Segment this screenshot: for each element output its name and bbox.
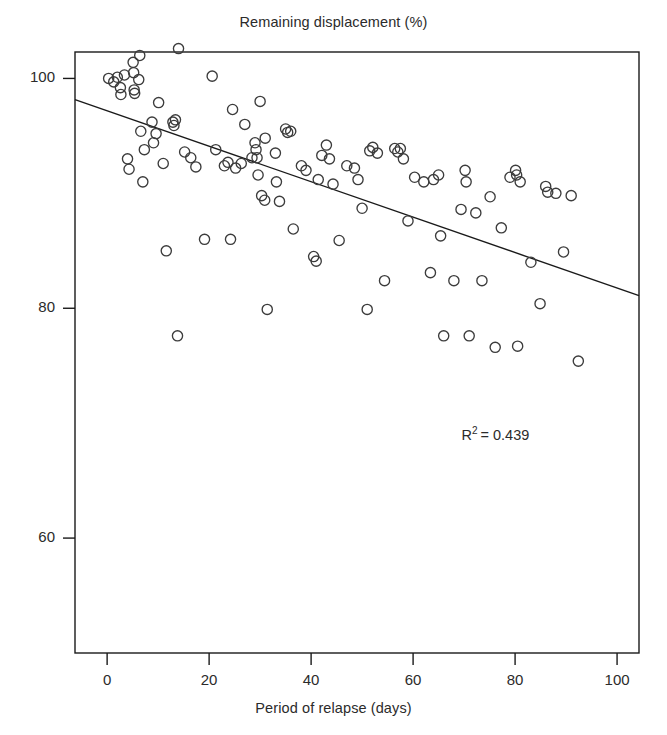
data-point xyxy=(136,126,146,136)
data-point xyxy=(271,177,281,187)
data-point xyxy=(199,234,209,244)
data-points-group xyxy=(104,43,584,366)
data-point xyxy=(573,356,583,366)
data-point xyxy=(439,331,449,341)
data-point xyxy=(227,104,237,114)
data-point xyxy=(260,133,270,143)
data-point xyxy=(321,140,331,150)
data-point xyxy=(147,117,157,127)
data-point xyxy=(464,331,474,341)
data-point xyxy=(151,128,161,138)
data-point xyxy=(535,299,545,309)
data-point xyxy=(270,148,280,158)
data-point xyxy=(154,97,164,107)
data-point xyxy=(485,192,495,202)
data-point xyxy=(334,235,344,245)
data-point xyxy=(122,154,132,164)
r-squared-value: = 0.439 xyxy=(478,426,530,442)
data-point xyxy=(116,89,126,99)
x-tick-label: 60 xyxy=(393,671,433,688)
data-point xyxy=(124,164,134,174)
data-point xyxy=(398,154,408,164)
y-tick-label: 80 xyxy=(9,298,55,315)
data-point xyxy=(172,331,182,341)
data-point xyxy=(541,181,551,191)
y-axis-ticks xyxy=(63,78,75,538)
x-tick-label: 80 xyxy=(495,671,535,688)
data-point xyxy=(357,203,367,213)
data-point xyxy=(262,304,272,314)
data-point xyxy=(566,191,576,201)
data-point xyxy=(180,147,190,157)
data-point xyxy=(313,174,323,184)
data-point xyxy=(207,71,217,81)
data-point xyxy=(139,145,149,155)
data-point xyxy=(134,74,144,84)
data-point xyxy=(456,204,466,214)
data-point xyxy=(129,68,139,78)
data-point xyxy=(255,96,265,106)
data-point xyxy=(461,177,471,187)
y-tick-label: 60 xyxy=(9,528,55,545)
data-point xyxy=(170,115,180,125)
data-point xyxy=(436,231,446,241)
data-point xyxy=(253,170,263,180)
x-tick-label: 40 xyxy=(291,671,331,688)
y-tick-label: 100 xyxy=(9,68,55,85)
data-point xyxy=(158,158,168,168)
data-point xyxy=(513,341,523,351)
data-point xyxy=(477,276,487,286)
x-tick-label: 20 xyxy=(189,671,229,688)
r-squared-annotation: R2 = 0.439 xyxy=(462,425,530,443)
data-point xyxy=(161,246,171,256)
chart-figure: Remaining displacement (%) Period of rel… xyxy=(0,0,667,735)
x-tick-label: 0 xyxy=(87,671,127,688)
data-point xyxy=(225,234,235,244)
plot-frame xyxy=(75,52,639,653)
r-squared-symbol: R xyxy=(462,426,472,442)
data-point xyxy=(419,177,429,187)
data-point xyxy=(496,223,506,233)
data-point xyxy=(379,276,389,286)
x-axis-label: Period of relapse (days) xyxy=(0,700,667,716)
data-point xyxy=(505,172,515,182)
x-axis-ticks xyxy=(107,653,617,665)
data-point xyxy=(460,165,470,175)
data-point xyxy=(449,276,459,286)
data-point xyxy=(362,304,372,314)
data-point xyxy=(274,196,284,206)
data-point xyxy=(288,224,298,234)
data-point xyxy=(191,162,201,172)
data-point xyxy=(328,179,338,189)
data-point xyxy=(240,119,250,129)
data-point xyxy=(138,177,148,187)
data-point xyxy=(425,268,435,278)
data-point xyxy=(353,174,363,184)
x-tick-label: 100 xyxy=(597,671,637,688)
data-point xyxy=(471,208,481,218)
data-point xyxy=(186,153,196,163)
scatter-plot-canvas xyxy=(0,0,667,735)
data-point xyxy=(558,247,568,257)
data-point xyxy=(403,216,413,226)
data-point xyxy=(490,342,500,352)
